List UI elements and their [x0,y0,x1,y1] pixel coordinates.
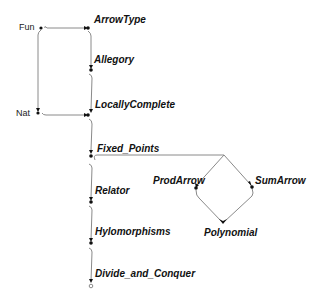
node-arrowtype[interactable]: ArrowType [94,14,146,26]
edge-hylo-divide [89,248,92,281]
edge-allegory-locallycomplete [89,74,92,110]
edge-nat-locallycomplete [42,113,86,115]
edge-arrowtype-allegory [88,31,91,66]
arrowhead-locallycomplete-v [89,109,93,113]
node-sumarrow[interactable]: SumArrow [255,175,306,187]
arrowhead-polynomial [219,219,227,224]
arrowhead-sumarrow [248,181,252,187]
edge-relator-hylo [89,206,92,240]
edge-fixed-diamond [94,155,224,160]
dot-fun [39,26,42,29]
edge-locallycomplete-fixed [89,119,92,150]
edge-fixed-sumarrow [224,155,250,184]
edge-prodarrow-polynomial [196,190,222,222]
node-locallycomplete[interactable]: LocallyComplete [95,99,175,111]
arrowhead-divide [89,279,93,283]
dot-fixed [89,154,93,158]
node-polynomial[interactable]: Polynomial [204,227,257,239]
dot-divide-open [89,284,93,288]
node-fixed-points[interactable]: Fixed_Points [97,143,159,155]
edge-sumarrow-polynomial [224,188,253,222]
edge-fun-arrowtype [45,27,86,29]
node-prodarrow[interactable]: ProdArrow [153,175,205,187]
edge-fixed-relator [89,164,92,198]
node-hylomorphisms[interactable]: Hylomorphisms [95,226,171,238]
arrowhead-nat [36,108,40,112]
source-fun[interactable]: Fun [19,22,35,33]
node-divide-and-conquer[interactable]: Divide_and_Conquer [95,268,195,280]
arrowhead-hylo [89,238,93,242]
source-nat[interactable]: Nat [16,108,30,119]
node-allegory[interactable]: Allegory [94,54,134,66]
edge-fun-nat [38,30,41,111]
node-relator[interactable]: Relator [95,185,129,197]
arrowhead-fixed [89,150,93,154]
arrowhead-relator [89,197,93,201]
arrowhead-allegory [89,65,93,69]
